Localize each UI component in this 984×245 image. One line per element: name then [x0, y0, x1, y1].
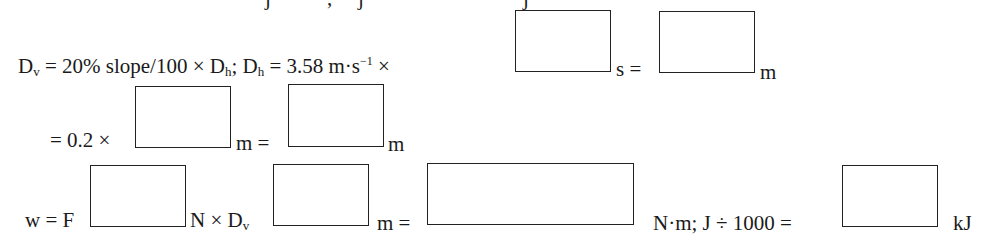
unit-s-equals: s = [616, 59, 641, 80]
answer-box-dv[interactable] [288, 84, 384, 147]
equation-line-2-prefix: = 0.2 × [50, 130, 110, 151]
work-formula-prefix: w = F [25, 210, 74, 231]
answer-box-work-kj[interactable] [842, 165, 938, 227]
answer-box-dh[interactable] [659, 11, 755, 73]
unit-n-times-dv: N × Dv [190, 210, 249, 232]
answer-box-dh-input[interactable] [135, 86, 231, 148]
answer-box-time[interactable] [515, 10, 611, 72]
cutoff-text: ј [358, 0, 364, 11]
unit-m-equals: m = [236, 133, 269, 154]
cutoff-text: , [327, 0, 332, 11]
answer-box-force[interactable] [90, 165, 186, 227]
answer-box-work-nm[interactable] [427, 163, 634, 225]
answer-box-dv-work[interactable] [273, 164, 369, 226]
unit-m: m [760, 62, 776, 83]
unit-kj: kJ [953, 213, 972, 234]
unit-m: m [388, 134, 404, 155]
equation-line-1: Dv = 20% slope/100 × Dh; Dh = 3.58 m·s−1… [18, 55, 390, 78]
unit-m-equals: m = [377, 213, 410, 234]
unit-nm-conversion: N·m; J ÷ 1000 = [653, 213, 792, 234]
cutoff-text: ј [265, 0, 271, 11]
